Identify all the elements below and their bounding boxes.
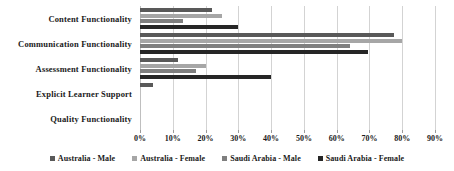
bar	[140, 44, 350, 48]
category-label: Assessment Functionality	[36, 64, 132, 74]
legend-item[interactable]: Australia - Male	[50, 154, 115, 163]
legend-label: Australia - Male	[58, 154, 115, 163]
legend-label: Australia - Female	[140, 154, 205, 163]
tick-label: 70%	[361, 134, 377, 143]
bar	[140, 83, 153, 87]
tick-mark	[435, 130, 436, 133]
legend-swatch-icon	[318, 156, 323, 161]
tick-label: 10%	[165, 134, 181, 143]
tick-label: 20%	[198, 134, 214, 143]
gridline-90pct	[435, 6, 436, 131]
bar	[140, 33, 394, 37]
tick-label: 0%	[134, 134, 146, 143]
tick-label: 60%	[329, 134, 345, 143]
bar	[140, 19, 183, 23]
chart-legend: Australia - MaleAustralia - FemaleSaudi …	[0, 150, 454, 166]
category-group	[140, 106, 435, 131]
bar	[140, 14, 222, 18]
tick-mark	[140, 130, 141, 133]
tick-label: 40%	[263, 134, 279, 143]
bar	[140, 64, 206, 68]
category-label: Explicit Learner Support	[36, 89, 132, 99]
tick-label: 30%	[230, 134, 246, 143]
category-group	[140, 6, 435, 31]
bar	[140, 69, 196, 73]
bar	[140, 8, 212, 12]
tick-label: 80%	[394, 134, 410, 143]
tick-mark	[173, 130, 174, 133]
legend-label: Saudi Arabia - Male	[230, 154, 301, 163]
tick-mark	[369, 130, 370, 133]
value-axis: 0%10%20%30%40%50%60%70%80%90%	[140, 133, 435, 147]
tick-mark	[206, 130, 207, 133]
legend-swatch-icon	[50, 156, 55, 161]
legend-item[interactable]: Saudi Arabia - Male	[222, 154, 301, 163]
legend-item[interactable]: Saudi Arabia - Female	[318, 154, 404, 163]
tick-mark	[238, 130, 239, 133]
category-label: Quality Functionality	[50, 114, 132, 124]
category-group	[140, 81, 435, 106]
category-group	[140, 56, 435, 81]
bar	[140, 75, 271, 79]
category-group	[140, 31, 435, 56]
bar	[140, 39, 402, 43]
tick-mark	[402, 130, 403, 133]
tick-label: 90%	[427, 134, 443, 143]
tick-label: 50%	[296, 134, 312, 143]
legend-swatch-icon	[222, 156, 227, 161]
category-axis-labels: Content FunctionalityCommunication Funct…	[0, 6, 136, 131]
legend-item[interactable]: Australia - Female	[132, 154, 205, 163]
category-label: Communication Functionality	[18, 39, 132, 49]
bar	[140, 50, 368, 54]
tick-mark	[271, 130, 272, 133]
legend-swatch-icon	[132, 156, 137, 161]
legend-label: Saudi Arabia - Female	[326, 154, 404, 163]
bar	[140, 25, 238, 29]
tick-mark	[337, 130, 338, 133]
bar	[140, 58, 178, 62]
category-label: Content Functionality	[48, 14, 132, 24]
tick-mark	[304, 130, 305, 133]
plot-area	[140, 6, 435, 131]
bar-chart: Content FunctionalityCommunication Funct…	[0, 0, 454, 171]
